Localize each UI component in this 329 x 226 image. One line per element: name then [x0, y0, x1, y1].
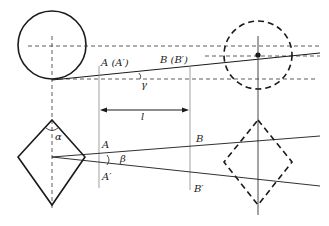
diagram-svg	[0, 0, 329, 226]
arrowhead-right	[182, 108, 189, 113]
label-alpha: α	[55, 132, 62, 142]
label-A: A	[102, 140, 109, 150]
label-beta: β	[120, 154, 126, 164]
diagram-canvas: A (A′) B (B′) γ l α A β A′ B B′	[0, 0, 329, 226]
label-B-B-prime: B (B′)	[160, 55, 188, 65]
label-A-A-prime: A (A′)	[101, 58, 129, 68]
label-gamma: γ	[141, 80, 147, 90]
arrowhead-left	[100, 108, 107, 113]
label-B: B	[196, 134, 203, 144]
label-A-prime: A′	[102, 172, 112, 182]
left-diamond	[18, 120, 85, 205]
label-length-l: l	[141, 112, 144, 122]
lower-ray-line	[52, 157, 320, 186]
label-B-prime: B′	[194, 184, 204, 194]
